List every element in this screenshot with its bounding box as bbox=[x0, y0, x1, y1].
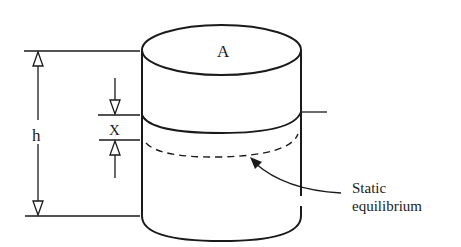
height-arrow-down-icon bbox=[33, 201, 43, 215]
cylinder-diagram: A h X Static equilibrium bbox=[0, 0, 461, 247]
area-label: A bbox=[217, 42, 230, 61]
equilibrium-label-line2: equilibrium bbox=[352, 198, 422, 214]
height-label: h bbox=[32, 126, 41, 145]
x-arrow-up-icon bbox=[110, 141, 120, 155]
equilibrium-leader-line bbox=[255, 163, 341, 193]
fluid-surface bbox=[142, 112, 301, 133]
displacement-label: X bbox=[109, 122, 120, 138]
cylinder-bottom bbox=[142, 216, 301, 241]
x-arrow-down-icon bbox=[110, 100, 120, 114]
equilibrium-label-line1: Static bbox=[352, 180, 387, 196]
height-arrow-up-icon bbox=[33, 52, 43, 66]
static-equilibrium-line bbox=[146, 134, 298, 157]
